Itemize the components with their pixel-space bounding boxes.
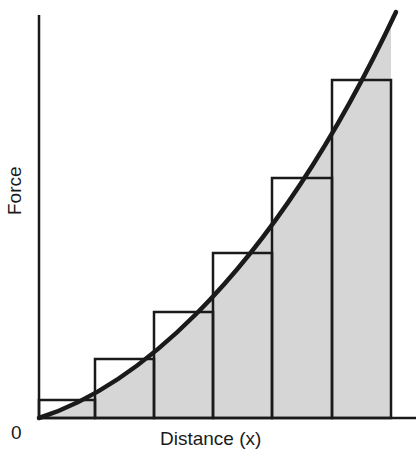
area-under-curve: [39, 12, 396, 418]
x-axis-label: Distance (x): [160, 428, 261, 450]
force-distance-diagram: [0, 0, 420, 460]
origin-label: 0: [11, 422, 22, 444]
y-axis-label: Force: [4, 166, 26, 215]
